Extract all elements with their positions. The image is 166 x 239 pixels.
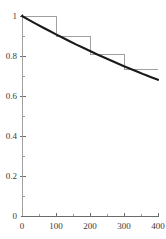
y-tick-label: 0.4: [6, 131, 18, 141]
x-tick-label: 0: [20, 221, 25, 231]
major-ticks-group: [20, 17, 159, 217]
x-tick-label: 400: [151, 221, 165, 231]
chart-figure: 00.20.40.60.81 0100200300400: [0, 0, 166, 239]
x-tick-labels-group: 0100200300400: [20, 221, 166, 231]
x-tick-label: 300: [117, 221, 131, 231]
x-tick-label: 200: [83, 221, 97, 231]
y-tick-label: 0.8: [6, 51, 18, 61]
plot-canvas: 00.20.40.60.81 0100200300400: [0, 0, 166, 239]
y-tick-label: 1: [13, 11, 18, 21]
x-tick-label: 100: [49, 221, 63, 231]
step-function-series: [22, 16, 158, 216]
y-tick-label: 0.6: [6, 91, 18, 101]
y-tick-labels-group: 00.20.40.60.81: [6, 11, 18, 221]
y-tick-label: 0.2: [6, 171, 17, 181]
y-tick-label: 0: [13, 211, 18, 221]
